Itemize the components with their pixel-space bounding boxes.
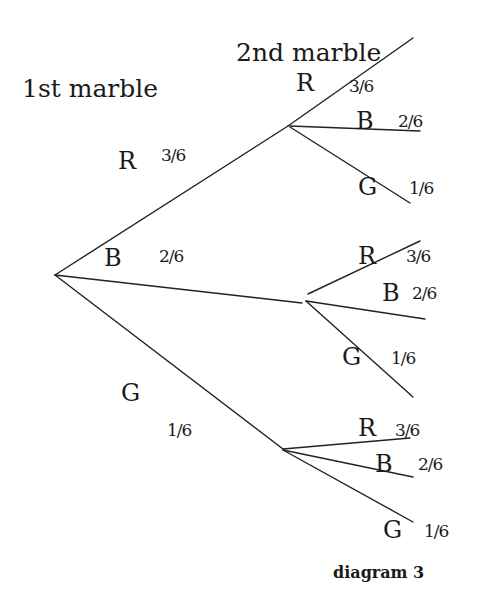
branch-G-G (283, 450, 413, 522)
B-R-label: R (358, 244, 376, 268)
first-B-label: B (104, 246, 122, 270)
B-B-label: B (382, 281, 400, 305)
G-B-label: B (375, 452, 393, 476)
G-R-prob: 3/6 (395, 422, 419, 439)
B-G-label: G (342, 345, 361, 369)
branch-G-B (283, 450, 413, 477)
diagram-caption: diagram 3 (333, 565, 424, 581)
G-R-label: R (358, 416, 376, 440)
B-B-prob: 2/6 (412, 285, 436, 302)
first-R-label: R (118, 149, 136, 173)
R-R-label: R (296, 71, 314, 95)
R-B-label: B (356, 109, 374, 133)
R-R-prob: 3/6 (349, 78, 373, 95)
branch-G-R (283, 438, 410, 449)
G-B-prob: 2/6 (418, 456, 442, 473)
B-R-prob: 3/6 (406, 248, 430, 265)
branch-first-B (55, 275, 302, 303)
B-G-prob: 1/6 (391, 350, 415, 367)
first-R-prob: 3/6 (161, 147, 185, 164)
G-G-label: G (383, 518, 402, 542)
G-G-prob: 1/6 (424, 523, 448, 540)
second-marble-heading: 2nd marble (236, 40, 381, 65)
R-B-prob: 2/6 (398, 113, 422, 130)
first-marble-heading: 1st marble (22, 76, 158, 101)
first-G-prob: 1/6 (167, 422, 191, 439)
probability-tree-diagram: 1st marble 2nd marble R 3/6 B 2/6 G 1/6 … (0, 0, 479, 612)
first-G-label: G (121, 381, 140, 405)
branch-R-G (290, 127, 410, 203)
R-G-prob: 1/6 (409, 180, 433, 197)
R-G-label: G (358, 175, 377, 199)
first-B-prob: 2/6 (159, 248, 183, 265)
